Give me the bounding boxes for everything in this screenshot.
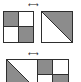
swap-arrows-icon: ←→ (28, 2, 38, 8)
checker-cell-empty (53, 60, 68, 75)
checker-cell-empty (38, 75, 53, 82)
checker-square-bottom (37, 59, 69, 82)
checker-square-top (3, 11, 34, 43)
checker-cell-filled (4, 12, 19, 27)
checker-cell-filled (38, 60, 53, 75)
diagonal-square-top (41, 11, 73, 43)
swap-arrows-icon: ←→ (28, 51, 38, 57)
checker-cell-empty (19, 12, 33, 27)
checker-cell-filled (53, 75, 68, 82)
diagonal-square-bottom (6, 59, 38, 82)
checker-cell-filled (19, 27, 33, 42)
checker-cell-empty (4, 27, 19, 42)
diagonal-triangle-shape (42, 12, 72, 42)
diagonal-triangle-shape (7, 60, 37, 82)
